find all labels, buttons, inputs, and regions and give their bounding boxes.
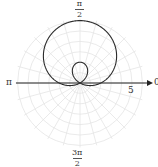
- angle-label-bottom-num: 3π: [72, 149, 82, 157]
- axis-arrowhead-icon: [147, 80, 153, 86]
- angle-label-top-num: π: [77, 0, 82, 8]
- angle-label-pi: π: [6, 78, 12, 87]
- angle-label-3pi-over-2: 3π 2: [72, 149, 82, 167]
- angle-label-top-den: 2: [77, 11, 82, 19]
- angle-label-pi-over-2: π 2: [75, 0, 84, 19]
- polar-plot: [0, 0, 158, 167]
- radial-tick-label: 5: [128, 86, 134, 95]
- angle-label-bottom-den: 2: [75, 160, 80, 167]
- angle-label-zero: 0: [154, 78, 158, 87]
